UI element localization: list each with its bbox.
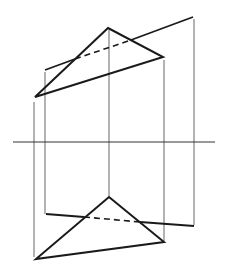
bottom-view [36,197,194,259]
bottom-line-visible-right [140,222,194,226]
top-triangle [35,28,163,97]
bottom-triangle [36,197,164,259]
projection-diagram [0,0,226,271]
top-view [35,17,193,97]
bottom-line-hidden-dashed [84,217,140,222]
top-line-visible-right [131,17,193,40]
bottom-line-visible-left [46,214,84,217]
projection-lines [34,19,194,257]
top-line-hidden-dashed [75,40,131,59]
